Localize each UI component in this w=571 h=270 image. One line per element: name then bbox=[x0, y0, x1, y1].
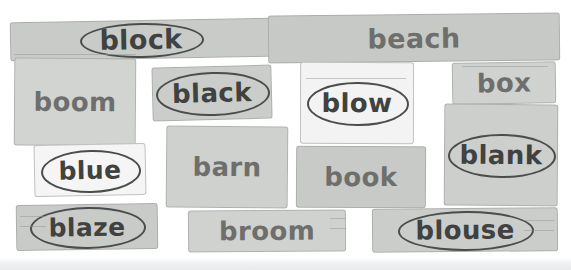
paper-seam bbox=[330, 218, 346, 219]
word-brick-barn[interactable]: barn bbox=[166, 125, 289, 208]
word-brick-blue[interactable]: blue bbox=[33, 143, 146, 197]
word-brick-blow[interactable]: blow bbox=[300, 62, 414, 144]
word-label: broom bbox=[219, 218, 315, 245]
paper-seam bbox=[524, 220, 554, 221]
bottom-paper-band bbox=[0, 258, 571, 270]
word-label: block bbox=[99, 25, 183, 53]
paper-seam bbox=[20, 226, 46, 227]
word-label: blaze bbox=[48, 214, 125, 240]
word-brick-box[interactable]: box bbox=[452, 61, 557, 104]
paper-seam bbox=[330, 228, 346, 229]
word-brick-blaze[interactable]: blaze bbox=[16, 203, 159, 251]
word-brick-beach[interactable]: beach bbox=[268, 12, 560, 63]
paper-seam bbox=[306, 78, 406, 79]
paper-seam bbox=[524, 230, 554, 231]
word-brick-broom[interactable]: broom bbox=[188, 209, 346, 252]
word-label: blouse bbox=[415, 217, 515, 244]
word-label: boom bbox=[33, 89, 116, 116]
paper-seam bbox=[20, 216, 46, 217]
word-brick-book[interactable]: book bbox=[296, 146, 426, 209]
paper-seam bbox=[462, 66, 548, 67]
word-label: book bbox=[324, 164, 397, 190]
word-label: box bbox=[477, 70, 532, 97]
word-brick-boom[interactable]: boom bbox=[14, 58, 137, 147]
word-label: beach bbox=[367, 24, 460, 52]
word-label: blow bbox=[321, 90, 392, 116]
paper-seam bbox=[14, 54, 136, 55]
word-label: black bbox=[172, 79, 252, 107]
word-label: blank bbox=[459, 142, 542, 169]
brick-wall-scene: blockbeachboomblackblowboxbluebarnbookbl… bbox=[0, 0, 571, 270]
word-label: barn bbox=[192, 154, 261, 181]
word-brick-blank[interactable]: blank bbox=[444, 104, 559, 207]
word-label: blue bbox=[58, 157, 121, 183]
word-brick-black[interactable]: black bbox=[151, 65, 272, 122]
